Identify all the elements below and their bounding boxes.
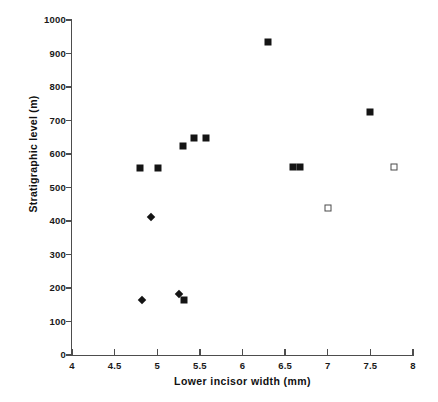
scatter-plot-figure: 01002003004005006007008009001000 44.555.… — [0, 0, 438, 402]
x-axis-tick-label: 5.5 — [180, 360, 220, 371]
x-axis-title: Lower incisor width (mm) — [72, 375, 413, 387]
x-axis-tick-label: 6.5 — [265, 360, 305, 371]
data-point-filled-square — [202, 135, 209, 142]
data-point-diamond — [138, 296, 146, 304]
data-point-diamond — [147, 213, 155, 221]
y-axis-tick-label: 100 — [32, 316, 66, 327]
x-axis-tick-label: 6 — [223, 360, 263, 371]
data-point-filled-square — [190, 135, 197, 142]
data-point-filled-square — [155, 165, 162, 172]
data-point-filled-square — [180, 297, 187, 304]
data-point-filled-square — [137, 165, 144, 172]
plot-area — [72, 20, 413, 355]
x-axis-tick-label: 4.5 — [95, 360, 135, 371]
x-axis-tick-label: 4 — [52, 360, 92, 371]
y-axis-tick-label: 1000 — [32, 14, 66, 25]
y-axis-tick-label: 300 — [32, 249, 66, 260]
y-axis-tick-label: 200 — [32, 282, 66, 293]
y-axis-title: Stratigraphic level (m) — [27, 59, 39, 249]
data-point-filled-square — [179, 142, 186, 149]
data-point-filled-square — [367, 109, 374, 116]
data-point-filled-square — [297, 164, 304, 171]
data-point-open-square — [324, 205, 331, 212]
x-axis-tick-label: 5 — [137, 360, 177, 371]
data-point-open-square — [391, 164, 398, 171]
data-point-filled-square — [289, 164, 296, 171]
x-axis-tick-label: 7 — [308, 360, 348, 371]
x-axis-tick-label: 7.5 — [350, 360, 390, 371]
x-axis-tick-label: 8 — [393, 360, 433, 371]
y-axis-tick-label: 0 — [32, 349, 66, 360]
data-point-filled-square — [265, 39, 272, 46]
y-axis-tick-label: 900 — [32, 48, 66, 59]
